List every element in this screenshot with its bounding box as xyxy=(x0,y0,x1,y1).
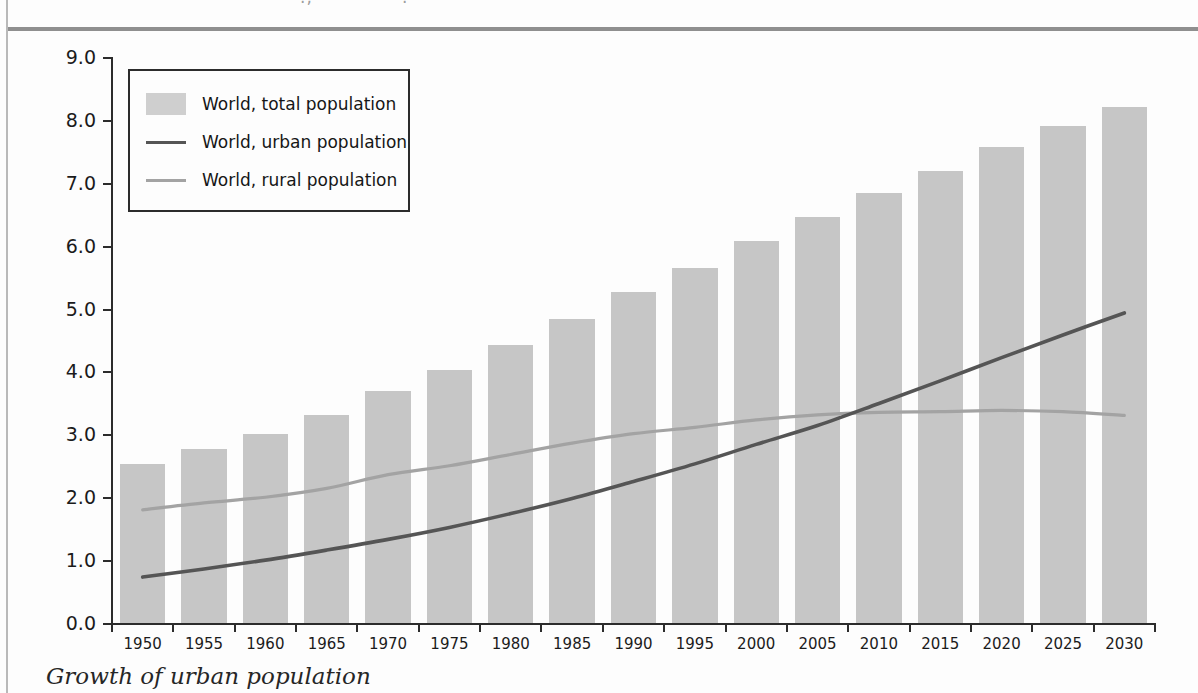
x-tick xyxy=(1031,623,1033,632)
y-tick-label: 8.0 xyxy=(44,109,96,131)
x-tick xyxy=(1154,623,1156,632)
population-chart: Population (billions) 0.01.02.03.04.05.0… xyxy=(0,31,1198,693)
x-tick-label: 1965 xyxy=(297,635,357,653)
x-tick-label: 1980 xyxy=(481,635,541,653)
y-tick-label: 1.0 xyxy=(44,549,96,571)
page-canvas: ., . Population (billions) 0.01.02.03.04… xyxy=(0,0,1198,693)
x-tick-label: 1975 xyxy=(419,635,479,653)
x-tick-label: 1970 xyxy=(358,635,418,653)
legend-item-rural-population: World, rural population xyxy=(130,161,408,199)
x-tick xyxy=(540,623,542,632)
y-tick-label: 4.0 xyxy=(44,360,96,382)
x-tick xyxy=(602,623,604,632)
rural-population-line xyxy=(143,410,1125,509)
y-tick-label: 2.0 xyxy=(44,486,96,508)
y-tick xyxy=(103,560,112,562)
y-tick-label: 7.0 xyxy=(44,172,96,194)
x-tick xyxy=(725,623,727,632)
x-tick xyxy=(479,623,481,632)
y-tick-label: 6.0 xyxy=(44,235,96,257)
legend-swatch-box-icon xyxy=(146,93,186,115)
x-tick xyxy=(356,623,358,632)
x-tick-label: 1960 xyxy=(235,635,295,653)
y-tick xyxy=(103,120,112,122)
legend-label-urban-population: World, urban population xyxy=(202,132,407,152)
x-tick xyxy=(663,623,665,632)
y-tick-label: 5.0 xyxy=(44,298,96,320)
clipped-header-text: ., . xyxy=(0,0,1198,22)
x-tick-label: 1950 xyxy=(113,635,173,653)
x-tick-label: 2015 xyxy=(910,635,970,653)
y-tick xyxy=(103,434,112,436)
figure-caption: Growth of urban population xyxy=(46,663,371,689)
x-tick xyxy=(418,623,420,632)
x-tick-label: 2025 xyxy=(1033,635,1093,653)
x-tick xyxy=(970,623,972,632)
x-axis-line xyxy=(111,623,1156,625)
y-tick xyxy=(103,371,112,373)
legend-swatch-line-icon xyxy=(146,141,186,144)
x-tick-label: 1955 xyxy=(174,635,234,653)
x-tick-label: 1990 xyxy=(604,635,664,653)
x-tick-label: 1985 xyxy=(542,635,602,653)
x-tick xyxy=(786,623,788,632)
x-tick xyxy=(172,623,174,632)
x-tick-label: 2020 xyxy=(972,635,1032,653)
x-tick-label: 2005 xyxy=(788,635,848,653)
x-tick xyxy=(847,623,849,632)
x-tick-label: 2000 xyxy=(726,635,786,653)
x-tick xyxy=(1093,623,1095,632)
x-tick-label: 1995 xyxy=(665,635,725,653)
legend-label-total-population: World, total population xyxy=(202,94,396,114)
x-tick-label: 2010 xyxy=(849,635,909,653)
legend-label-rural-population: World, rural population xyxy=(202,170,397,190)
x-tick xyxy=(295,623,297,632)
y-tick xyxy=(103,309,112,311)
urban-population-line xyxy=(143,313,1125,577)
chart-legend: World, total population World, urban pop… xyxy=(128,69,410,212)
x-tick xyxy=(234,623,236,632)
y-tick xyxy=(103,57,112,59)
x-tick xyxy=(111,623,113,632)
y-tick-label: 0.0 xyxy=(44,612,96,634)
y-tick-label: 3.0 xyxy=(44,423,96,445)
y-tick xyxy=(103,246,112,248)
x-tick xyxy=(909,623,911,632)
y-tick xyxy=(103,183,112,185)
legend-swatch-line-light-icon xyxy=(146,179,186,182)
legend-item-total-population: World, total population xyxy=(130,85,408,123)
x-tick-label: 2030 xyxy=(1094,635,1154,653)
y-tick-label: 9.0 xyxy=(44,46,96,68)
legend-item-urban-population: World, urban population xyxy=(130,123,408,161)
y-tick xyxy=(103,497,112,499)
